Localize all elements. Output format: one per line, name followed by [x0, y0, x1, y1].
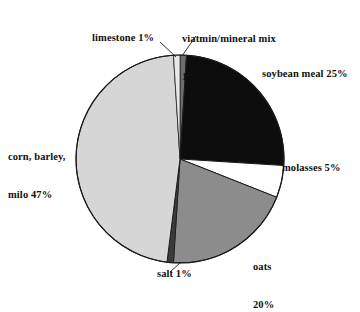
- slice-label-oats: oats 20%: [253, 236, 274, 312]
- slice-label-vitamin-mineral-mix: viatmin/mineral mix 1%: [182, 8, 276, 108]
- slice-label-oats-line1: oats: [253, 261, 274, 274]
- slice-label-oats-line2: 20%: [253, 299, 274, 312]
- pie-slice-corn-barley-milo: [76, 55, 180, 262]
- slice-label-corn-barley-milo: corn, barley, milo 47%: [8, 126, 66, 226]
- slice-label-salt: salt 1%: [157, 268, 192, 281]
- leader-line-limestone: [160, 42, 176, 57]
- slice-label-corn-barley-milo-line1: corn, barley,: [8, 151, 66, 164]
- slice-label-limestone: limestone 1%: [92, 32, 154, 45]
- slice-label-molasses: molasses 5%: [282, 162, 341, 175]
- slice-label-vitamin-mineral-mix-line1: viatmin/mineral mix: [182, 33, 276, 46]
- slice-label-corn-barley-milo-line2: milo 47%: [8, 189, 66, 202]
- slice-label-soybean-meal: soybean meal 25%: [262, 68, 348, 81]
